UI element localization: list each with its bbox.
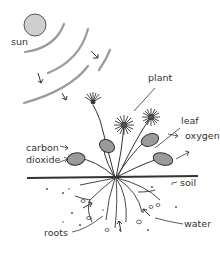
label-sun: sun bbox=[11, 37, 28, 47]
flower-right bbox=[142, 108, 160, 126]
label-carbon-dioxide-2: dioxide bbox=[26, 155, 60, 165]
label-water: water bbox=[184, 219, 211, 229]
flower-middle bbox=[114, 115, 134, 135]
photosynthesis-diagram: sun plant leaf oxygen carbon dioxide soi… bbox=[0, 0, 220, 254]
roots bbox=[75, 178, 160, 228]
flower-heads bbox=[85, 92, 160, 135]
soil-line bbox=[27, 176, 198, 178]
light-arrows bbox=[38, 51, 98, 100]
leaves bbox=[66, 131, 174, 167]
label-plant: plant bbox=[148, 73, 172, 83]
sun-icon bbox=[24, 14, 46, 36]
label-oxygen: oxygen bbox=[185, 131, 220, 141]
label-leaf: leaf bbox=[181, 116, 199, 126]
flower-small bbox=[85, 92, 101, 104]
label-carbon-dioxide-1: carbon bbox=[26, 143, 59, 153]
label-roots: roots bbox=[44, 228, 68, 238]
label-soil: soil bbox=[180, 178, 196, 188]
diagram-canvas bbox=[0, 0, 220, 254]
